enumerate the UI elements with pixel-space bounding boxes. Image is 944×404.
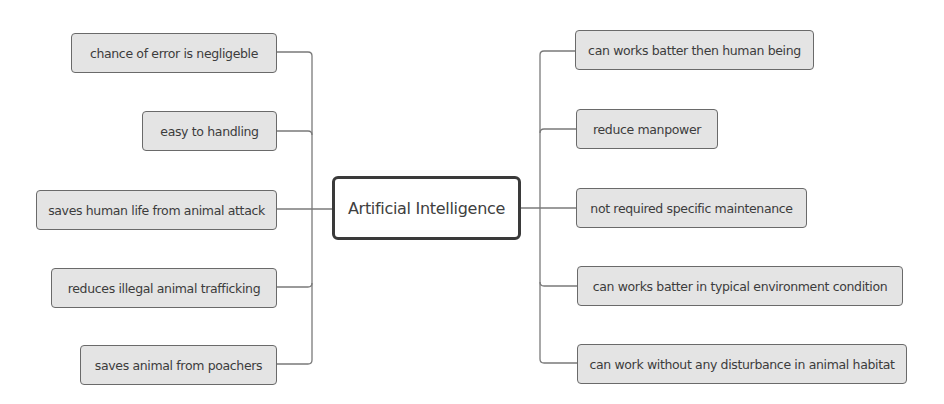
central-topic-label: Artificial Intelligence [348, 199, 505, 218]
node-label: not required specific maintenance [590, 201, 792, 216]
right-node-3[interactable]: not required specific maintenance [576, 188, 807, 228]
right-branch-2-line [540, 129, 576, 133]
node-label: saves animal from poachers [95, 358, 262, 373]
right-node-1[interactable]: can works batter then human being [575, 30, 814, 70]
node-label: can works batter in typical environment … [593, 279, 888, 294]
node-label: reduce manpower [593, 122, 701, 137]
left-branch-2-line [276, 131, 312, 135]
node-label: can work without any disturbance in anim… [589, 357, 894, 372]
right-node-4[interactable]: can works batter in typical environment … [577, 266, 903, 306]
node-label: chance of error is negligeble [90, 46, 258, 61]
node-label: easy to handling [160, 124, 258, 139]
right-branch-4-line [540, 282, 577, 286]
left-node-5[interactable]: saves animal from poachers [80, 345, 277, 385]
left-node-3[interactable]: saves human life from animal attack [36, 190, 277, 230]
mind-map-canvas: chance of error is negligeble easy to ha… [0, 0, 944, 404]
left-node-2[interactable]: easy to handling [142, 111, 277, 151]
left-node-4[interactable]: reduces illegal animal trafficking [51, 268, 277, 308]
node-label: reduces illegal animal trafficking [68, 281, 260, 296]
right-node-5[interactable]: can work without any disturbance in anim… [577, 344, 907, 384]
left-branch-4-line [276, 283, 312, 287]
left-node-1[interactable]: chance of error is negligeble [71, 33, 277, 73]
left-trunk-line [276, 52, 312, 364]
node-label: saves human life from animal attack [48, 203, 265, 218]
right-trunk-line [540, 51, 577, 363]
right-node-2[interactable]: reduce manpower [576, 109, 718, 149]
node-label: can works batter then human being [588, 43, 801, 58]
central-topic-node[interactable]: Artificial Intelligence [332, 176, 521, 240]
